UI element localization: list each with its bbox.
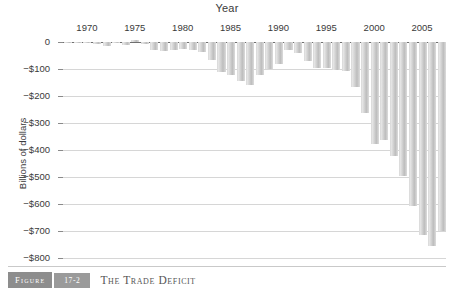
bar: [313, 42, 321, 68]
bar: [265, 42, 273, 69]
x-tick-label: 1980: [172, 22, 193, 33]
bar: [275, 42, 283, 64]
caption-title: The Trade Deficit: [100, 274, 195, 286]
bar: [150, 42, 158, 50]
y-tick-label: −$700: [0, 225, 50, 236]
y-tick-label: −$500: [0, 171, 50, 182]
bar: [332, 42, 340, 70]
x-tick-label: 1990: [268, 22, 289, 33]
bar: [112, 42, 120, 43]
bar: [179, 42, 187, 49]
bar: [371, 42, 379, 144]
bar: [323, 42, 331, 68]
y-tick-label: −$200: [0, 90, 50, 101]
bar: [399, 42, 407, 176]
bar: [342, 42, 350, 71]
bar: [237, 42, 245, 81]
bar: [246, 42, 254, 85]
bar: [361, 42, 369, 113]
bar: [93, 42, 101, 44]
plot-area: 0−$100−$200−$300−$400−$500−$600−$700−$80…: [63, 42, 446, 258]
figure-caption: Figure 17-2 The Trade Deficit: [8, 272, 196, 288]
bar: [141, 42, 149, 44]
bar: [131, 40, 139, 42]
bar: [198, 42, 206, 52]
trade-deficit-figure: Year Billions of dollars 0−$100−$200−$30…: [0, 0, 454, 305]
y-tick-label: −$600: [0, 198, 50, 209]
bar: [428, 42, 436, 246]
x-axis-title: Year: [0, 2, 454, 14]
bar: [227, 42, 235, 75]
bar: [170, 42, 178, 50]
bar: [74, 42, 82, 43]
bar: [409, 42, 417, 206]
caption-figure-label: Figure: [8, 272, 52, 288]
gridline: [63, 258, 446, 259]
caption-figure-number: 17-2: [54, 273, 90, 288]
y-tick-label: −$400: [0, 144, 50, 155]
bar: [103, 42, 111, 46]
x-tick-label: 1975: [124, 22, 145, 33]
x-tick-label: 2000: [364, 22, 385, 33]
x-tick-label: 1985: [220, 22, 241, 33]
y-tick-label: −$100: [0, 63, 50, 74]
y-tick-mark: [58, 258, 63, 259]
bar-series: [63, 42, 446, 258]
x-tick-label: 1970: [76, 22, 97, 33]
bar: [83, 42, 91, 43]
y-tick-label: −$800: [0, 252, 50, 263]
bar: [64, 42, 72, 43]
bar: [189, 42, 197, 50]
bar: [419, 42, 427, 235]
bar: [304, 42, 312, 61]
bar: [217, 42, 225, 72]
x-tick-label: 2005: [411, 22, 432, 33]
bar: [208, 42, 216, 60]
bar: [438, 42, 446, 231]
bar: [294, 42, 302, 53]
y-tick-label: −$300: [0, 117, 50, 128]
bar: [390, 42, 398, 156]
bar: [122, 42, 130, 45]
y-tick-label: 0: [0, 36, 50, 47]
caption-divider: [8, 266, 446, 267]
bar: [284, 42, 292, 50]
bar: [351, 42, 359, 87]
bar: [256, 42, 264, 75]
x-tick-label: 1995: [316, 22, 337, 33]
bar: [160, 42, 168, 51]
bar: [380, 42, 388, 140]
